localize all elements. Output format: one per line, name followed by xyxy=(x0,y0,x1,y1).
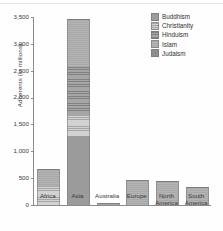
buddhism-swatch xyxy=(151,13,159,21)
y-tick-label: 0 xyxy=(26,201,29,208)
x-axis-label-south-america: South America xyxy=(181,192,211,207)
islam-swatch xyxy=(151,40,159,48)
bar-segment-islam[interactable] xyxy=(67,19,90,68)
y-tick-label: 3,000 xyxy=(14,40,29,47)
judaism-swatch xyxy=(151,49,159,57)
christianity-swatch xyxy=(151,22,159,30)
y-tick-mark xyxy=(31,205,34,206)
y-axis-label: Adherents (in millions) xyxy=(16,21,23,131)
bar-australia[interactable] xyxy=(97,203,120,205)
y-tick-label: 2,000 xyxy=(14,93,29,100)
legend-label: Christianity xyxy=(162,22,193,29)
legend-item-christianity[interactable]: Christianity xyxy=(151,22,193,30)
legend-label: Buddhism xyxy=(162,13,190,20)
legend-item-hinduism[interactable]: Hinduism xyxy=(151,31,193,39)
y-tick-label: 2,500 xyxy=(14,67,29,74)
x-axis-label-australia: Australia xyxy=(92,192,122,199)
bar-segment-islam[interactable] xyxy=(37,169,60,186)
y-tick-label: 3,500 xyxy=(14,13,29,20)
y-tick-label: 1,000 xyxy=(14,147,29,154)
legend-item-judaism[interactable]: Judaism xyxy=(151,49,193,57)
x-axis-label-north-america: North America xyxy=(152,192,182,207)
legend-item-islam[interactable]: Islam xyxy=(151,40,193,48)
bar-africa[interactable] xyxy=(37,169,60,205)
legend-label: Hinduism xyxy=(162,31,188,38)
legend-label: Islam xyxy=(162,41,177,48)
legend: BuddhismChristianityHinduismIslamJudaism xyxy=(151,13,193,57)
x-axis-label-asia: Asia xyxy=(63,192,93,199)
legend-item-buddhism[interactable]: Buddhism xyxy=(151,13,193,21)
x-axis-label-africa: Africa xyxy=(33,192,63,199)
top-divider xyxy=(0,3,223,4)
chart-container: Adherents (in millions) 3,500 3,000 2,50… xyxy=(0,0,223,231)
y-tick-label: 1,500 xyxy=(14,120,29,127)
bar-asia[interactable] xyxy=(67,19,90,205)
bar-segment-hinduism[interactable] xyxy=(67,67,90,115)
hinduism-swatch xyxy=(151,31,159,39)
x-axis-label-europe: Europe xyxy=(122,192,152,199)
bar-segment-christianity[interactable] xyxy=(67,115,90,137)
bar-segment-christianity[interactable] xyxy=(97,204,120,205)
legend-label: Judaism xyxy=(162,50,185,57)
y-tick-label: 500 xyxy=(19,174,29,181)
